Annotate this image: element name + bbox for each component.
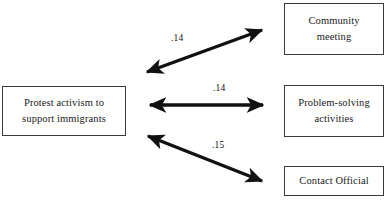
node-community-text: Community meeting <box>308 13 359 46</box>
edge-protest-contact <box>148 136 262 181</box>
node-community-meeting[interactable]: Community meeting <box>284 3 384 55</box>
edge-label-protest-community: .14 <box>171 33 183 43</box>
edge-label-protest-problem: .14 <box>213 83 225 93</box>
node-protest-line1: Protest activism to <box>22 95 106 111</box>
node-contact-text: Contact Official <box>299 173 368 189</box>
node-protest-activism[interactable]: Protest activism to support immigrants <box>2 86 126 136</box>
edge-protest-community <box>147 30 262 72</box>
node-protest-line2: support immigrants <box>22 111 106 127</box>
node-problem-solving-activities[interactable]: Problem-solving activities <box>284 85 384 137</box>
node-problem-text: Problem-solving activities <box>298 95 370 128</box>
node-community-line2: meeting <box>308 29 359 45</box>
path-diagram: Protest activism to support immigrants C… <box>0 0 392 201</box>
node-problem-line2: activities <box>298 111 370 127</box>
node-protest-text: Protest activism to support immigrants <box>22 95 106 128</box>
node-community-line1: Community <box>308 13 359 29</box>
edge-label-protest-contact: .15 <box>212 140 224 150</box>
node-contact-line1: Contact Official <box>299 173 368 189</box>
node-contact-official[interactable]: Contact Official <box>284 166 384 196</box>
node-problem-line1: Problem-solving <box>298 95 370 111</box>
